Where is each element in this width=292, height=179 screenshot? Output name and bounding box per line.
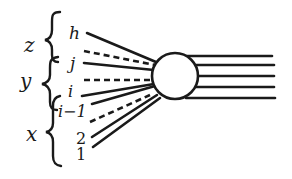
line-label-i: i — [68, 82, 73, 101]
incoming-lines — [82, 33, 160, 147]
diagram: z y x h j i i−1 2 1 — [0, 0, 292, 179]
group-label-x: x — [26, 122, 37, 146]
line-label-1: 1 — [76, 145, 86, 164]
line-h — [87, 33, 156, 62]
group-label-z: z — [23, 33, 35, 57]
group-label-y: y — [19, 69, 32, 93]
line-label-i-minus-1: i−1 — [58, 102, 87, 121]
vertex-circle — [152, 53, 198, 99]
brace-z — [45, 12, 60, 62]
line-label-h: h — [69, 23, 80, 43]
brace-y — [42, 57, 58, 110]
line-label-j: j — [66, 53, 76, 73]
